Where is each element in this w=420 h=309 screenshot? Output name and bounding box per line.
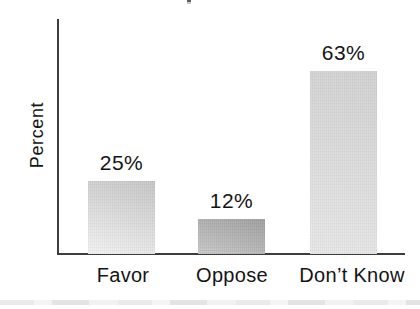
bar-dont-know bbox=[310, 71, 377, 254]
bar-value-label-oppose: 12% bbox=[210, 189, 254, 212]
bar-group-favor: 25% bbox=[88, 151, 155, 254]
bar-group-oppose: 12% bbox=[198, 189, 265, 254]
bar-oppose bbox=[198, 219, 265, 254]
scan-artifact-band bbox=[0, 300, 420, 305]
x-tick-label-oppose: Oppose bbox=[176, 264, 288, 287]
bar-value-label-dont-know: 63% bbox=[322, 41, 366, 64]
bar-chart-figure: Percent 25% 12% 63% Favor Oppose Don’t K… bbox=[0, 0, 420, 309]
y-axis-label: Percent bbox=[27, 65, 49, 205]
y-axis-line bbox=[57, 19, 59, 255]
bar-group-dont-know: 63% bbox=[310, 41, 377, 254]
x-tick-label-dont-know: Don’t Know bbox=[290, 264, 414, 287]
scan-artifact-mark bbox=[187, 0, 191, 4]
x-tick-label-favor: Favor bbox=[68, 264, 178, 287]
bar-value-label-favor: 25% bbox=[100, 151, 144, 174]
bar-favor bbox=[88, 181, 155, 254]
